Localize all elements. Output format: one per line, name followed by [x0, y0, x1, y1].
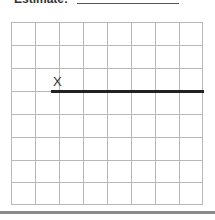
estimate-label: Estimate:	[14, 0, 68, 5]
grid-line	[11, 160, 203, 161]
estimate-answer-blank[interactable]	[77, 3, 179, 4]
grid-line	[11, 137, 203, 138]
grid-line	[11, 182, 203, 183]
estimate-label-row: Estimate:	[14, 0, 68, 5]
line-segment	[51, 90, 204, 93]
x-marker: X	[53, 75, 62, 88]
grid-line	[11, 114, 203, 115]
bottom-divider	[0, 211, 215, 214]
grid-line	[11, 22, 203, 23]
grid-paper	[11, 22, 203, 205]
grid-line	[11, 68, 203, 69]
grid-line	[11, 204, 203, 205]
grid-line	[11, 45, 203, 46]
